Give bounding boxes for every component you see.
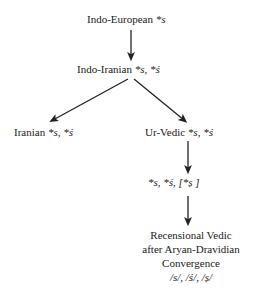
- node-indo-european-label: Indo-European: [87, 13, 153, 25]
- node-iranian-segments: *s, *ś: [48, 126, 73, 138]
- recensional-vedic-line-1: Recensional Vedic: [121, 228, 261, 242]
- node-indo-european-segments: *s: [156, 13, 166, 25]
- recensional-vedic-phonemes: /s/, /ś/, /ṣ/: [121, 270, 261, 284]
- node-recensional-vedic: Recensional Vedic after Aryan-Dravidian …: [121, 228, 261, 284]
- node-indo-iranian: Indo-Iranian *s, *ś: [77, 63, 160, 76]
- node-ur-vedic: Ur-Vedic *s, *ś: [145, 126, 213, 139]
- node-iranian-label: Iranian: [14, 126, 45, 138]
- sibilant-development-diagram: Indo-European *s Indo-Iranian *s, *ś Ira…: [0, 0, 261, 300]
- recensional-vedic-line-2: after Aryan-Dravidian: [121, 242, 261, 256]
- arrow-indo-iranian-to-ur-vedic: [134, 79, 184, 120]
- node-ur-vedic-segments: *s, *ś: [188, 126, 213, 138]
- arrow-indo-iranian-to-iranian: [53, 79, 128, 120]
- node-indo-iranian-segments: *s, *ś: [135, 63, 160, 75]
- node-indo-european: Indo-European *s: [87, 13, 166, 26]
- node-ur-vedic-reflex: *s, *ś, [*ṣ ]: [148, 176, 200, 189]
- node-ur-vedic-label: Ur-Vedic: [145, 126, 185, 138]
- node-ur-vedic-reflex-segments: *s, *ś, [*ṣ ]: [148, 176, 200, 188]
- node-indo-iranian-label: Indo-Iranian: [77, 63, 132, 75]
- node-iranian: Iranian *s, *ś: [14, 126, 73, 139]
- recensional-vedic-line-3: Convergence: [121, 256, 261, 270]
